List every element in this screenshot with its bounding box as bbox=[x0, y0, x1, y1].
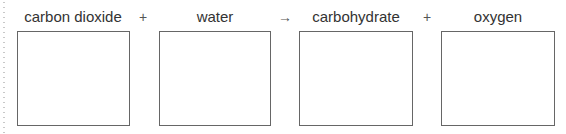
answer-box-oxygen[interactable] bbox=[441, 31, 555, 126]
arrow-operator: → bbox=[275, 7, 295, 27]
term-label-carbohydrate: carbohydrate bbox=[299, 7, 413, 27]
term-label-water: water bbox=[159, 7, 271, 27]
plus-operator: + bbox=[417, 7, 437, 27]
answer-box-carbohydrate[interactable] bbox=[299, 31, 413, 126]
answer-box-water[interactable] bbox=[159, 31, 271, 126]
dotted-margin-line bbox=[3, 0, 5, 134]
term-label-oxygen: oxygen bbox=[441, 7, 555, 27]
answer-box-carbon-dioxide[interactable] bbox=[17, 31, 130, 126]
plus-operator: + bbox=[133, 7, 153, 27]
term-label-carbon-dioxide: carbon dioxide bbox=[9, 7, 137, 27]
